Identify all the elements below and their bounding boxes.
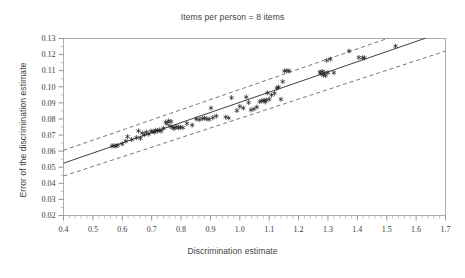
data-point xyxy=(281,79,285,84)
svg-text:0.13: 0.13 xyxy=(42,34,56,43)
data-point xyxy=(246,100,250,105)
data-point xyxy=(357,55,361,60)
confidence-bands xyxy=(64,38,446,176)
svg-text:0.10: 0.10 xyxy=(42,83,56,92)
svg-text:0.05: 0.05 xyxy=(42,163,56,172)
data-point xyxy=(211,115,215,120)
svg-text:0.03: 0.03 xyxy=(42,195,56,204)
data-point xyxy=(244,95,248,100)
chart-figure: Items per person = 8 items Error of the … xyxy=(0,0,465,278)
svg-text:0.04: 0.04 xyxy=(42,179,56,188)
svg-text:0.09: 0.09 xyxy=(42,99,56,108)
data-points xyxy=(110,44,398,149)
svg-text:1.6: 1.6 xyxy=(411,225,421,234)
y-axis-label: Error of the discrimination estimate xyxy=(18,45,28,215)
svg-text:1.0: 1.0 xyxy=(235,225,245,234)
data-point xyxy=(136,128,140,133)
svg-text:0.11: 0.11 xyxy=(42,66,56,75)
svg-text:1.1: 1.1 xyxy=(264,225,274,234)
data-point xyxy=(229,95,233,100)
x-axis-label: Discrimination estimate xyxy=(0,246,465,256)
x-axis-ticks xyxy=(64,216,446,221)
svg-text:0.4: 0.4 xyxy=(59,225,69,234)
chart-title: Items per person = 8 items xyxy=(0,12,465,22)
svg-text:0.7: 0.7 xyxy=(147,225,157,234)
data-point xyxy=(269,93,273,98)
svg-text:0.06: 0.06 xyxy=(42,147,56,156)
svg-text:0.12: 0.12 xyxy=(42,50,56,59)
data-point xyxy=(272,91,276,96)
svg-text:0.08: 0.08 xyxy=(42,115,56,124)
data-point xyxy=(241,106,245,111)
data-point xyxy=(214,114,218,119)
svg-text:1.4: 1.4 xyxy=(352,225,362,234)
data-point xyxy=(235,108,239,113)
data-point xyxy=(209,106,213,111)
svg-text:0.8: 0.8 xyxy=(176,225,186,234)
data-point xyxy=(332,70,336,75)
data-point xyxy=(279,97,283,102)
data-point xyxy=(125,134,129,139)
y-axis-tick-labels: 0.020.030.040.050.060.070.080.090.100.11… xyxy=(42,34,56,220)
data-point xyxy=(255,105,259,110)
data-point xyxy=(190,123,194,128)
data-point xyxy=(185,121,189,126)
scatter-plot-canvas: 0.40.50.60.70.80.91.01.11.21.31.41.51.61… xyxy=(0,0,465,278)
svg-text:0.02: 0.02 xyxy=(42,211,56,220)
svg-text:0.9: 0.9 xyxy=(205,225,215,234)
y-axis-ticks xyxy=(59,39,64,216)
svg-text:0.5: 0.5 xyxy=(88,225,98,234)
svg-text:0.6: 0.6 xyxy=(117,225,127,234)
svg-text:0.07: 0.07 xyxy=(42,131,56,140)
svg-text:1.2: 1.2 xyxy=(294,225,304,234)
plot-frame xyxy=(64,39,446,216)
svg-text:1.3: 1.3 xyxy=(323,225,333,234)
data-point xyxy=(238,104,242,109)
svg-text:1.7: 1.7 xyxy=(441,225,451,234)
svg-text:1.5: 1.5 xyxy=(382,225,392,234)
x-axis-tick-labels: 0.40.50.60.70.80.91.01.11.21.31.41.51.61… xyxy=(59,225,451,234)
